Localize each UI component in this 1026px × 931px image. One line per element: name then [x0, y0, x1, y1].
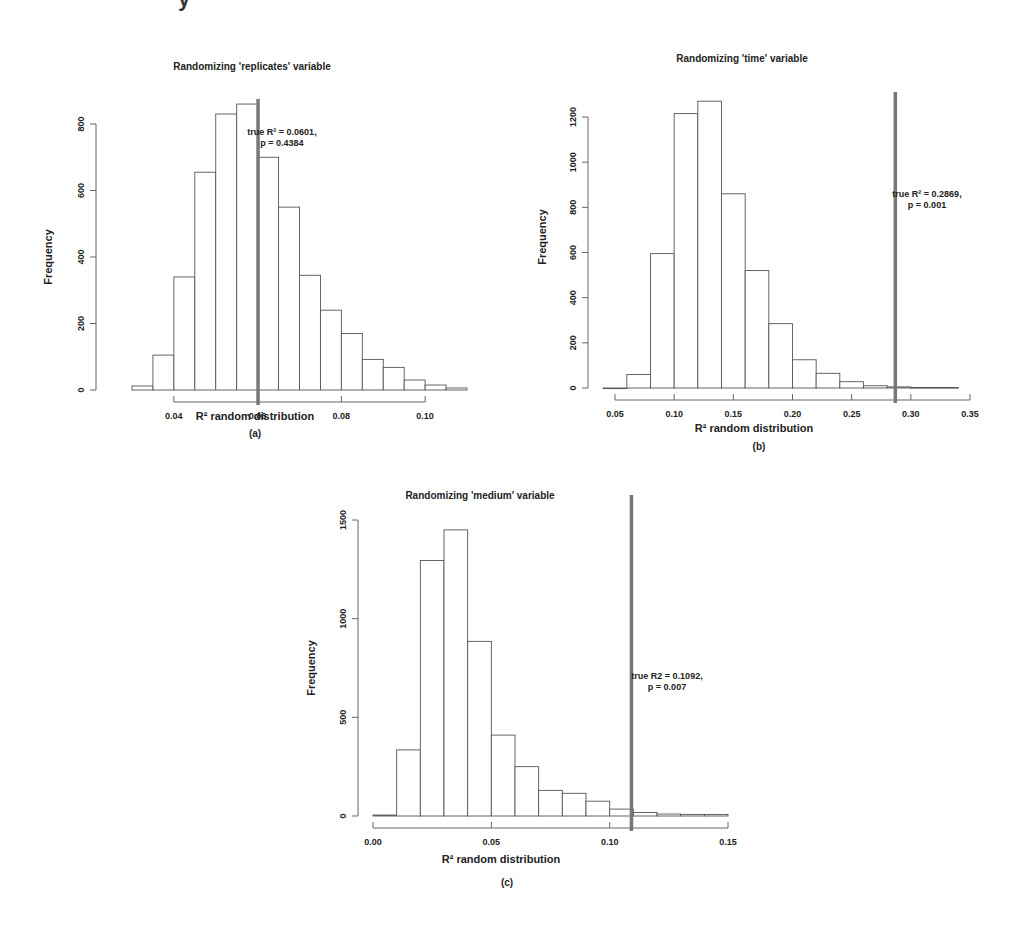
histogram-bar — [651, 254, 675, 388]
y-tick-label: 200 — [76, 316, 86, 331]
reference-annotation-line1: true R² = 0.2869, — [892, 189, 961, 199]
histogram-bar — [237, 104, 258, 390]
histogram-bar — [420, 560, 444, 816]
histogram-bar — [397, 750, 421, 816]
x-tick-label: 0.10 — [416, 411, 434, 421]
x-tick-label: 0.05 — [483, 837, 501, 847]
histogram-bar — [515, 767, 539, 816]
chart-title: Randomizing 'medium' variable — [405, 490, 555, 501]
histogram-bar — [562, 793, 586, 816]
histogram-bar — [195, 172, 216, 390]
histogram-bar — [491, 735, 515, 816]
histogram-bar — [373, 815, 397, 816]
histogram-bar — [300, 275, 321, 390]
subfigure-caption: (a) — [249, 428, 261, 439]
y-tick-label: 600 — [76, 183, 86, 198]
y-tick-label: 800 — [76, 116, 86, 131]
histogram-bar — [404, 380, 425, 390]
y-tick-label: 1000 — [338, 609, 348, 629]
x-axis-label: R² random distribution — [196, 410, 315, 422]
histogram-bar — [681, 814, 705, 816]
x-tick-label: 0.35 — [961, 409, 979, 419]
histogram-bar — [864, 386, 888, 388]
histogram-bar — [586, 801, 610, 816]
histogram-bar — [468, 641, 492, 816]
reference-annotation-line2: p = 0.007 — [648, 682, 686, 692]
y-tick-label: 0 — [568, 385, 578, 390]
x-axis-label: R² random distribution — [442, 853, 561, 865]
y-tick-label: 500 — [338, 710, 348, 725]
y-axis-label: Frequency — [42, 228, 54, 285]
histogram-bar — [627, 374, 651, 388]
y-tick-label: 1000 — [568, 152, 578, 172]
reference-annotation-line1: true R² = 0.0601, — [247, 127, 316, 137]
histogram-bar — [153, 355, 174, 390]
reference-annotation-line2: p = 0.001 — [908, 200, 946, 210]
x-tick-label: 0.10 — [601, 837, 619, 847]
x-tick-label: 0.08 — [333, 411, 351, 421]
histogram-bar — [132, 386, 153, 390]
y-tick-label: 0 — [338, 813, 348, 818]
histogram-bar — [674, 114, 698, 388]
x-tick-label: 0.10 — [665, 409, 683, 419]
histogram-bar — [320, 310, 341, 390]
reference-annotation-line2: p = 0.4384 — [260, 138, 303, 148]
reference-annotation-line1: true R2 = 0.1092, — [631, 671, 702, 681]
histogram-bar — [840, 382, 864, 388]
histogram-bar — [258, 157, 279, 390]
histogram-bar — [704, 814, 728, 816]
x-axis-label: R² random distribution — [695, 422, 814, 434]
histogram-c: 0500100015000.000.050.100.15true R2 = 0.… — [305, 490, 737, 888]
histogram-bar — [769, 324, 793, 388]
histogram-bar — [383, 367, 404, 390]
x-tick-label: 0.20 — [784, 409, 802, 419]
x-tick-label: 0.04 — [165, 411, 183, 421]
histogram-bar — [722, 194, 746, 388]
y-tick-label: 400 — [76, 249, 86, 264]
histogram-b: 0200400600800100012000.050.100.150.200.2… — [536, 53, 979, 452]
histogram-bar — [698, 101, 722, 388]
y-tick-label: 800 — [568, 200, 578, 215]
histogram-bar — [341, 333, 362, 390]
y-tick-label: 0 — [76, 387, 86, 392]
histogram-bar — [633, 812, 657, 816]
histogram-bar — [539, 790, 563, 816]
y-axis-label: Frequency — [536, 208, 548, 265]
x-tick-label: 0.15 — [725, 409, 743, 419]
figure-canvas: 02004006008000.040.060.080.10true R² = 0… — [0, 0, 1026, 931]
histogram-bar — [793, 360, 817, 388]
y-tick-label: 400 — [568, 290, 578, 305]
histogram-bar — [816, 373, 840, 388]
subfigure-caption: (c) — [501, 877, 513, 888]
y-axis-label: Frequency — [305, 639, 317, 696]
histogram-a: 02004006008000.040.060.080.10true R² = 0… — [42, 61, 467, 439]
histogram-bar — [745, 271, 769, 388]
x-tick-label: 0.05 — [606, 409, 624, 419]
histogram-bar — [425, 385, 446, 390]
y-tick-label: 600 — [568, 245, 578, 260]
histogram-bar — [911, 388, 935, 389]
x-tick-label: 0.15 — [719, 837, 737, 847]
x-tick-label: 0.30 — [902, 409, 920, 419]
histogram-bar — [887, 387, 911, 388]
y-tick-label: 200 — [568, 335, 578, 350]
histogram-bar — [216, 114, 237, 390]
histogram-bar — [279, 207, 300, 390]
y-tick-label: 1200 — [568, 107, 578, 127]
x-tick-label: 0.25 — [843, 409, 861, 419]
chart-title: Randomizing 'time' variable — [676, 53, 808, 64]
histogram-bar — [174, 277, 195, 390]
chart-title: Randomizing 'replicates' variable — [173, 61, 331, 72]
histogram-bar — [444, 530, 468, 816]
y-tick-label: 1500 — [338, 510, 348, 530]
histogram-bar — [603, 388, 627, 389]
histogram-bar — [657, 814, 681, 816]
histogram-bar — [362, 359, 383, 390]
histogram-bar — [935, 388, 959, 389]
x-tick-label: 0.00 — [364, 837, 382, 847]
subfigure-caption: (b) — [753, 441, 766, 452]
histogram-bar — [446, 388, 467, 390]
